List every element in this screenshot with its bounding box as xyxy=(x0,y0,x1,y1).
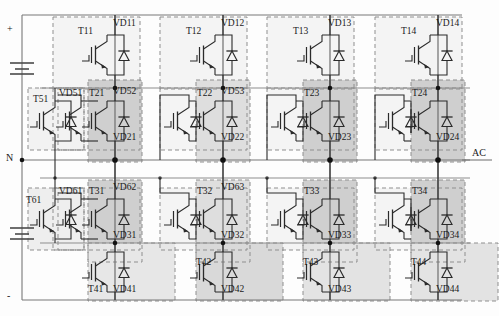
device-label-t42: T42 xyxy=(196,258,211,268)
device-label-vd31: VD31 xyxy=(113,231,136,241)
device-label-t11: T11 xyxy=(78,27,93,37)
schematic-svg xyxy=(0,0,499,316)
device-label-t33: T33 xyxy=(304,187,319,197)
device-label-t12: T12 xyxy=(186,27,201,37)
device-label-vd32: VD32 xyxy=(221,231,244,241)
device-label-vd24: VD24 xyxy=(436,133,459,143)
device-label-t43: T43 xyxy=(303,258,318,268)
device-label-t22: T22 xyxy=(197,89,212,99)
device-label-t51: T51 xyxy=(33,95,48,105)
device-label-vd43: VD43 xyxy=(328,285,351,295)
device-label-t32: T32 xyxy=(197,187,212,197)
device-label-vd34: VD34 xyxy=(436,231,459,241)
rail-label-negative: - xyxy=(7,291,10,301)
rail-label-ac-output: AC xyxy=(472,148,486,158)
circuit-diagram-canvas: + N - AC T11 VD11 T12 VD12 T13 VD13 T14 … xyxy=(0,0,499,316)
rail-label-neutral: N xyxy=(6,153,13,163)
device-label-vd42: VD42 xyxy=(221,285,244,295)
device-label-t31: T31 xyxy=(89,187,104,197)
device-label-vd33: VD33 xyxy=(328,231,351,241)
device-label-vd22: VD22 xyxy=(221,133,244,143)
device-label-t24: T24 xyxy=(412,89,427,99)
device-label-vd51: VD51 xyxy=(59,89,82,99)
device-label-vd14: VD14 xyxy=(436,19,459,29)
device-label-t13: T13 xyxy=(293,27,308,37)
device-label-vd63: VD63 xyxy=(221,183,244,193)
device-label-vd21: VD21 xyxy=(113,133,136,143)
device-label-vd62: VD62 xyxy=(113,183,136,193)
device-label-t21: T21 xyxy=(89,89,104,99)
device-label-vd53: VD53 xyxy=(221,87,244,97)
device-label-t61: T61 xyxy=(26,196,41,206)
device-label-vd13: VD13 xyxy=(328,19,351,29)
device-label-vd52: VD52 xyxy=(113,87,136,97)
device-label-vd41: VD41 xyxy=(113,285,136,295)
device-label-vd61: VD61 xyxy=(59,187,82,197)
device-label-t44: T44 xyxy=(411,258,426,268)
device-label-vd12: VD12 xyxy=(221,19,244,29)
rail-label-positive: + xyxy=(7,24,13,34)
device-label-t23: T23 xyxy=(304,89,319,99)
device-label-vd44: VD44 xyxy=(436,285,459,295)
device-label-t41: T41 xyxy=(88,285,103,295)
device-label-vd23: VD23 xyxy=(328,133,351,143)
shade-aux xyxy=(28,88,84,250)
device-label-vd11: VD11 xyxy=(113,19,136,29)
device-label-t14: T14 xyxy=(401,27,416,37)
device-label-t34: T34 xyxy=(412,187,427,197)
